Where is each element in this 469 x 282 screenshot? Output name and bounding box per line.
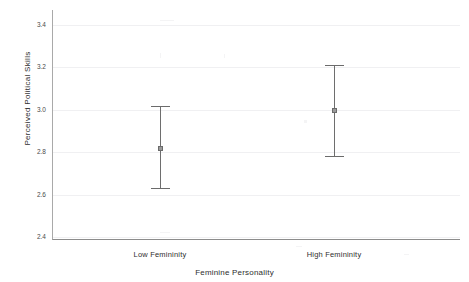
data-point-marker xyxy=(332,108,337,113)
error-bar-cap-upper xyxy=(151,106,170,107)
error-bar-cap-upper xyxy=(325,65,344,66)
chart-figure: Perceived Political Skills Feminine Pers… xyxy=(0,0,469,282)
data-point-marker xyxy=(158,146,163,151)
gridline xyxy=(53,152,460,153)
y-axis-label: Perceived Political Skills xyxy=(23,4,32,194)
x-axis-label: Feminine Personality xyxy=(0,268,469,277)
scan-artifact xyxy=(304,120,307,123)
y-axis-tick-label: 2.8 xyxy=(20,148,46,155)
scan-artifact xyxy=(160,232,170,233)
y-axis-tick-label: 3.4 xyxy=(20,21,46,28)
error-bar-cap-lower xyxy=(151,188,170,189)
plot-area xyxy=(52,10,460,240)
gridline xyxy=(53,67,460,68)
scan-artifact xyxy=(160,20,174,21)
gridline xyxy=(53,110,460,111)
scan-artifact xyxy=(224,54,225,58)
scan-artifact xyxy=(404,254,409,255)
gridline xyxy=(53,25,460,26)
x-axis-tick-label: High Femininity xyxy=(274,250,394,259)
gridline xyxy=(53,195,460,196)
x-axis-tick-label: Low Femininity xyxy=(100,250,220,259)
scan-artifact xyxy=(160,53,161,58)
y-axis-tick-label: 3.2 xyxy=(20,63,46,70)
y-axis-tick-label: 3.0 xyxy=(20,106,46,113)
y-axis-tick-label: 2.6 xyxy=(20,191,46,198)
y-axis-tick-label: 2.4 xyxy=(20,233,46,240)
gridline xyxy=(53,237,460,238)
error-bar-cap-lower xyxy=(325,156,344,157)
scan-artifact xyxy=(296,246,302,247)
